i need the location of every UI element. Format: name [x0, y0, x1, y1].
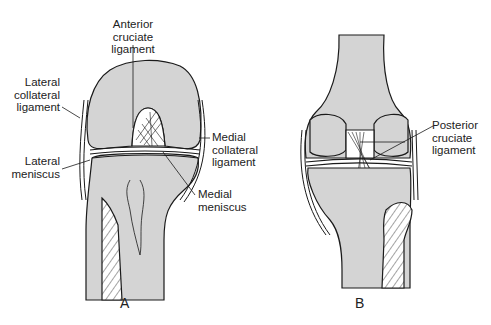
- label-posterior-cruciate-ligament: Posterior cruciate ligament: [432, 119, 490, 157]
- panel-letter-a: A: [120, 295, 129, 311]
- panel-a-drawing: [80, 60, 205, 300]
- label-lateral-collateral-ligament: Lateral collateral ligament: [8, 76, 60, 114]
- knee-ligaments-figure: Anterior cruciate ligament Lateral colla…: [0, 0, 491, 325]
- label-anterior-cruciate-ligament: Anterior cruciate ligament: [110, 18, 156, 56]
- label-medial-collateral-ligament: Medial collateral ligament: [212, 131, 272, 169]
- panel-b-drawing: [301, 35, 418, 288]
- label-medial-meniscus: Medial meniscus: [198, 188, 258, 213]
- panel-letter-b: B: [355, 295, 364, 311]
- label-lateral-meniscus: Lateral meniscus: [8, 155, 60, 180]
